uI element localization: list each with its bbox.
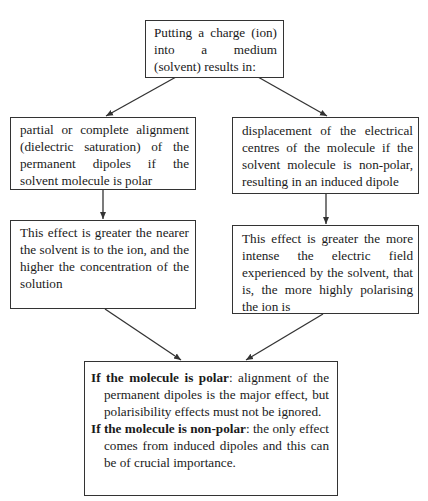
arrow-top-to-right: [258, 77, 327, 116]
polar-condition-box: This effect is greater the nearer the so…: [10, 220, 196, 309]
arrow-left2-to-bottom: [105, 309, 181, 360]
conclusion-box: If the molecule is polar: alignment of t…: [84, 361, 338, 496]
start-box: Putting a charge (ion) into a medium (so…: [145, 20, 284, 78]
polar-conclusion-label: If the molecule is polar: [91, 370, 229, 385]
polar-condition-text: This effect is greater the nearer the so…: [20, 224, 189, 292]
induced-dipole-text: displacement of the electrical centres o…: [242, 122, 413, 190]
polar-alignment-text: partial or complete alignment (dielectri…: [20, 121, 189, 189]
nonpolar-conclusion: If the molecule is non-polar: the only e…: [91, 420, 329, 471]
induced-dipole-box: displacement of the electrical centres o…: [232, 117, 419, 194]
polar-alignment-box: partial or complete alignment (dielectri…: [10, 117, 196, 190]
nonpolar-condition-text: This effect is greater the more intense …: [242, 230, 413, 315]
arrow-right2-to-bottom: [246, 314, 323, 360]
nonpolar-condition-box: This effect is greater the more intense …: [232, 225, 419, 314]
nonpolar-conclusion-label: If the molecule is non-polar: [91, 421, 246, 436]
start-text: Putting a charge (ion) into a medium (so…: [154, 24, 277, 75]
arrow-top-to-left: [106, 77, 176, 116]
polar-conclusion: If the molecule is polar: alignment of t…: [91, 369, 329, 420]
